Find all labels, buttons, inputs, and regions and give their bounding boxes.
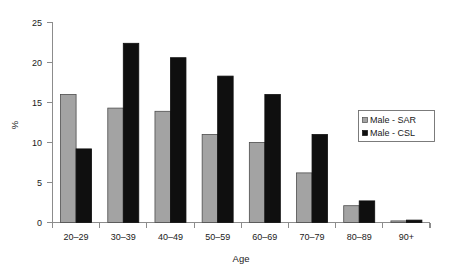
y-axis-tick-labels: 0 5 10 15 20 25 bbox=[32, 18, 42, 228]
bar bbox=[297, 173, 313, 223]
bar-chart: 0 5 10 15 20 25 % 20–2930–3940–4950–5960… bbox=[0, 0, 460, 276]
chart-svg: 0 5 10 15 20 25 % 20–2930–3940–4950–5960… bbox=[0, 0, 460, 276]
x-tick-label: 40–49 bbox=[158, 232, 183, 242]
x-tick-label: 50–59 bbox=[205, 232, 230, 242]
bar bbox=[265, 95, 281, 223]
x-tick-label: 60–69 bbox=[252, 232, 277, 242]
x-tick-label: 80–89 bbox=[347, 232, 372, 242]
legend-label-male-sar: Male - SAR bbox=[370, 115, 417, 125]
y-tick-label: 0 bbox=[37, 218, 42, 228]
bar bbox=[249, 143, 265, 223]
x-axis-tick-labels: 20–2930–3940–4950–5960–6970–7980–8990+ bbox=[64, 232, 414, 242]
y-tick-label: 20 bbox=[32, 58, 42, 68]
legend: Male - SAR Male - CSL bbox=[359, 111, 435, 142]
y-axis-title: % bbox=[9, 120, 20, 129]
bar bbox=[359, 201, 375, 223]
y-tick-label: 10 bbox=[32, 138, 42, 148]
bar bbox=[344, 206, 360, 223]
x-tick-label: 90+ bbox=[399, 232, 414, 242]
legend-swatch-male-csl bbox=[363, 131, 368, 136]
x-tick-label: 30–39 bbox=[111, 232, 136, 242]
legend-label-male-csl: Male - CSL bbox=[370, 128, 415, 138]
bar bbox=[108, 108, 124, 222]
x-tick-label: 20–29 bbox=[64, 232, 89, 242]
bar bbox=[123, 43, 139, 222]
bar bbox=[76, 149, 92, 223]
x-tick-label: 70–79 bbox=[300, 232, 325, 242]
x-axis-ticks bbox=[53, 223, 431, 228]
bar bbox=[202, 135, 218, 223]
y-tick-label: 5 bbox=[37, 178, 42, 188]
bar bbox=[155, 111, 171, 222]
bar bbox=[218, 76, 234, 222]
y-tick-label: 25 bbox=[32, 18, 42, 28]
bar bbox=[61, 95, 76, 223]
bar bbox=[312, 135, 328, 223]
y-axis-ticks bbox=[47, 23, 53, 223]
legend-swatch-male-sar bbox=[363, 118, 368, 123]
y-tick-label: 15 bbox=[32, 98, 42, 108]
x-axis-title: Age bbox=[233, 253, 250, 264]
bar bbox=[406, 220, 422, 222]
bar bbox=[391, 221, 407, 223]
bar bbox=[170, 58, 186, 223]
